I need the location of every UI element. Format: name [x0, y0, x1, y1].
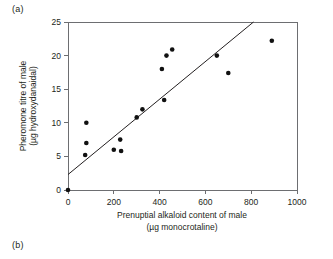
data-point	[215, 53, 220, 58]
x-axis-ticks: 02004006008001000	[66, 190, 307, 207]
data-point	[134, 115, 139, 120]
figure-panel-a: (a) (b) 0510152025 02004006008001000 Phe…	[0, 0, 333, 259]
axis-frame	[68, 22, 297, 190]
x-tick-label: 0	[66, 197, 71, 207]
y-axis-ticks: 0510152025	[52, 17, 68, 195]
data-point	[140, 107, 145, 112]
regression-line-segment	[68, 22, 253, 175]
y-tick-label: 10	[52, 118, 62, 128]
y-axis-title: Pheromone titre of male (µg hydroxydanai…	[18, 60, 38, 151]
data-points	[66, 39, 274, 193]
data-point	[84, 121, 89, 126]
data-point	[170, 47, 175, 52]
data-point	[162, 98, 167, 103]
data-point	[226, 71, 231, 76]
x-tick-label: 400	[153, 197, 167, 207]
y-tick-label: 25	[52, 17, 62, 27]
regression-line	[68, 22, 253, 175]
x-tick-label: 1000	[288, 197, 307, 207]
y-tick-label: 20	[52, 51, 62, 61]
y-axis-title-line2: (µg hydroxydanaidal)	[28, 66, 38, 146]
x-tick-label: 800	[244, 197, 258, 207]
data-point	[119, 149, 124, 154]
x-tick-label: 200	[107, 197, 121, 207]
y-tick-label: 5	[56, 151, 61, 161]
x-axis-title-line1: Prenuptial alkaloid content of male	[117, 210, 247, 220]
data-point	[66, 188, 71, 193]
data-point	[112, 147, 117, 152]
y-axis-title-line1: Pheromone titre of male	[18, 60, 28, 151]
data-point	[118, 137, 123, 142]
y-tick-label: 0	[56, 185, 61, 195]
data-point	[160, 67, 165, 72]
x-axis-title: Prenuptial alkaloid content of male (µg …	[117, 210, 247, 232]
scatter-plot: 0510152025 02004006008001000 Pheromone t…	[0, 0, 333, 259]
x-axis-title-line2: (µg monocrotaline)	[146, 222, 217, 232]
data-point	[164, 53, 169, 58]
data-point	[84, 141, 89, 146]
data-point	[83, 153, 88, 158]
y-tick-label: 15	[52, 84, 62, 94]
data-point	[270, 39, 275, 44]
x-tick-label: 600	[198, 197, 212, 207]
